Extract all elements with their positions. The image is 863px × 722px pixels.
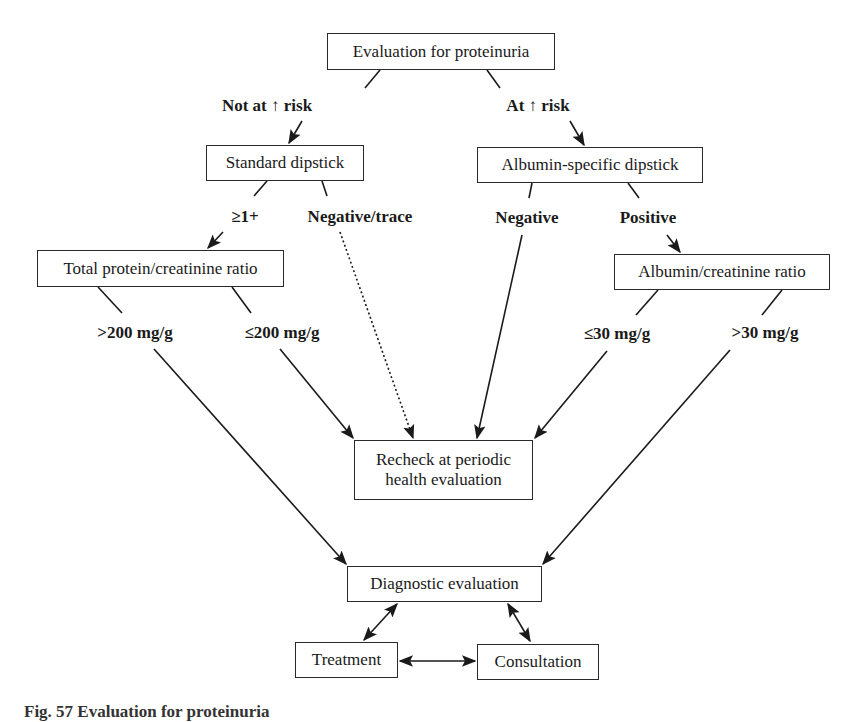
edge-tp-to-le200 — [232, 287, 251, 313]
edge-tp-to-gt200 — [98, 287, 122, 313]
label-positive: Positive — [620, 208, 677, 228]
node-evaluation-for-proteinuria: Evaluation for proteinuria — [327, 33, 555, 70]
edge-albumin-to-negative — [529, 183, 532, 198]
label-gt-30: >30 mg/g — [732, 323, 799, 343]
edge-gt30-to-diagnostic — [543, 350, 730, 564]
label-not-at-increased-risk: Not at ↑ risk — [222, 96, 312, 116]
edge-standard-to-negtrace — [322, 181, 327, 196]
edge-at-risk-to-albumin — [570, 121, 584, 145]
node-treatment: Treatment — [295, 642, 398, 678]
edge-root-to-not-at-risk — [365, 70, 380, 88]
label-le-200: ≤200 mg/g — [245, 323, 320, 343]
edge-not-at-risk-to-standard — [289, 121, 302, 143]
edge-diagnostic-consultation — [508, 604, 530, 641]
edge-root-to-at-risk — [487, 70, 500, 88]
label-gt-200: >200 mg/g — [97, 323, 172, 343]
edge-ar-to-le30 — [636, 290, 658, 315]
node-albumin-creatinine-ratio: Albumin/creatinine ratio — [614, 254, 830, 290]
edge-negative-to-recheck — [477, 235, 522, 438]
node-total-protein-creatinine-ratio: Total protein/creatinine ratio — [37, 250, 284, 287]
edge-diagnostic-treatment — [364, 604, 397, 640]
edge-ar-to-gt30 — [762, 290, 782, 315]
label-at-increased-risk: At ↑ risk — [506, 96, 569, 116]
label-ge-1plus: ≥1+ — [231, 207, 259, 227]
node-recheck-periodic-health-evaluation: Recheck at periodic health evaluation — [354, 440, 533, 500]
edge-negtrace-to-recheck — [340, 232, 413, 438]
edge-albumin-to-positive — [628, 183, 639, 198]
label-negative-trace: Negative/trace — [308, 207, 413, 227]
label-le-30: ≤30 mg/g — [584, 324, 650, 344]
edge-ge1-to-total-protein — [208, 232, 223, 248]
node-consultation: Consultation — [477, 644, 599, 680]
edge-positive-to-albumin-ratio — [667, 235, 680, 252]
node-standard-dipstick: Standard dipstick — [206, 145, 364, 181]
edge-gt200-to-diagnostic — [154, 349, 346, 564]
node-diagnostic-evaluation: Diagnostic evaluation — [347, 566, 542, 602]
figure-caption: Fig. 57 Evaluation for proteinuria — [24, 702, 269, 722]
edge-le200-to-recheck — [280, 349, 353, 438]
edge-standard-to-ge1 — [254, 181, 267, 196]
node-albumin-specific-dipstick: Albumin-specific dipstick — [477, 147, 703, 183]
edge-le30-to-recheck — [535, 351, 607, 438]
label-negative: Negative — [495, 208, 558, 228]
